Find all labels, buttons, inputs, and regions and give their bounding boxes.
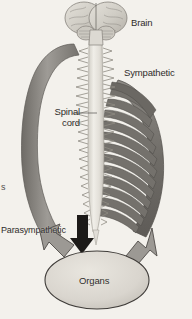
anatomy-figure: Brain Sympathetic Spinal cord Parasympat… — [0, 0, 192, 319]
label-parasympathetic: Parasympathetic — [1, 225, 66, 236]
brainstem — [89, 30, 103, 45]
label-edge-fragment: s — [1, 182, 5, 193]
label-spinal-cord: Spinal cord — [42, 107, 80, 128]
label-organs: Organs — [79, 276, 109, 287]
figure-illustration — [0, 0, 192, 319]
label-brain: Brain — [131, 18, 152, 29]
label-sympathetic: Sympathetic — [124, 68, 175, 79]
spinal-cord-body — [88, 40, 104, 232]
